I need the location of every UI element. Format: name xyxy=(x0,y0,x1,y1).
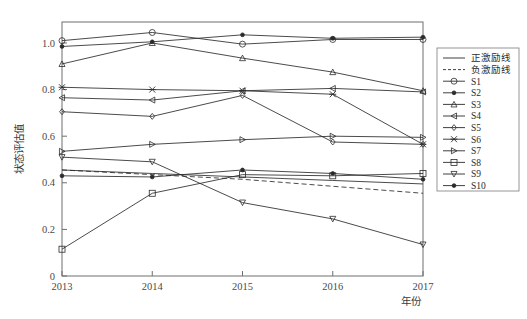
legend-label: S10 xyxy=(471,181,486,191)
data-point-marker xyxy=(421,35,425,39)
x-tick-label: 2015 xyxy=(232,281,253,292)
legend-label: S3 xyxy=(471,100,481,110)
data-point-marker xyxy=(331,172,335,176)
x-tick-label: 2017 xyxy=(413,281,434,292)
data-point-marker xyxy=(60,174,64,178)
y-tick-label: 0.4 xyxy=(42,177,56,188)
data-point-marker xyxy=(421,177,425,181)
legend-label: S6 xyxy=(471,135,481,145)
line-chart: 00.20.40.60.81.0 20132014201520162017 状态… xyxy=(0,0,527,319)
y-tick-label: 0.6 xyxy=(42,131,55,142)
legend-label: S4 xyxy=(471,111,481,121)
y-tick-label: 0.2 xyxy=(42,224,55,235)
y-tick-label: 0 xyxy=(50,271,55,282)
chart-legend: 正激励线负激励线S1S2S3S4S5S6S7S8S9S10 xyxy=(437,48,519,191)
data-point-marker xyxy=(241,33,245,37)
legend-label: S9 xyxy=(471,169,481,179)
legend-marker xyxy=(452,91,456,95)
legend-marker xyxy=(452,184,456,188)
x-tick-label: 2016 xyxy=(322,281,343,292)
x-tick-label: 2014 xyxy=(142,281,164,292)
x-tick-label: 2013 xyxy=(52,281,73,292)
legend-label: S1 xyxy=(471,77,481,87)
legend-label: 正激励线 xyxy=(471,52,511,63)
y-axis-title: 状态评估值 xyxy=(13,123,25,174)
y-tick-label: 0.8 xyxy=(42,84,55,95)
x-axis-title: 年份 xyxy=(401,295,422,307)
data-point-marker xyxy=(150,175,154,179)
legend-label: S2 xyxy=(471,88,481,98)
legend-label: 负激励线 xyxy=(471,64,511,75)
data-point-marker xyxy=(241,168,245,172)
chart-figure: 00.20.40.60.81.0 20132014201520162017 状态… xyxy=(0,0,527,319)
legend-label: S5 xyxy=(471,123,481,133)
y-tick-label: 1.0 xyxy=(42,38,55,49)
legend-label: S8 xyxy=(471,158,481,168)
data-point-marker xyxy=(60,45,64,49)
data-point-marker xyxy=(331,36,335,40)
legend-label: S7 xyxy=(471,146,481,156)
